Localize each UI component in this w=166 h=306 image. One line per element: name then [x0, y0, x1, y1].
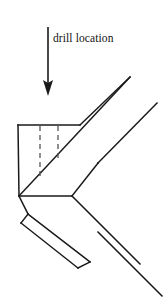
strip-top-edge [28, 214, 90, 262]
drill-location-annotation: drill location [43, 27, 114, 96]
joint-block-upper-left [18, 77, 130, 196]
lower-arm-inner-edge [98, 232, 162, 296]
strip-left-end-edge [21, 214, 28, 223]
block-left-edge [18, 125, 19, 196]
corner-inner-bevel [72, 163, 98, 196]
block-miter-diagonal [19, 77, 130, 196]
lower-arm-outer-edge [72, 196, 140, 264]
upper-arm-inner-edge [98, 103, 157, 163]
strip-shoulder-edge [19, 196, 28, 214]
joint-spline-strip [19, 196, 90, 268]
drill-location-diagram: drill location [0, 0, 166, 306]
joint-corner-vertex [19, 163, 98, 196]
joint-arm-lower-right [72, 196, 162, 296]
strip-right-end-edge [78, 262, 90, 268]
diagram-canvas: drill location [0, 0, 166, 306]
upper-arm-outer-edge [80, 77, 130, 125]
drill-location-label: drill location [53, 32, 114, 44]
